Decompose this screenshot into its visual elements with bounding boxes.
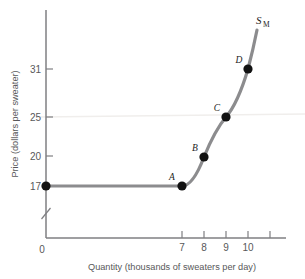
- x-axis-title: Quantity (thousands of sweaters per day): [88, 262, 256, 272]
- y-tick-label-25: 25: [30, 112, 42, 123]
- data-point-a: [177, 181, 186, 190]
- data-point-label-a: A: [168, 172, 175, 182]
- x-axis-ticks: [182, 231, 270, 238]
- y-tick-label-17: 17: [30, 181, 42, 192]
- supply-curve-chart: 31 25 20 17 7 8 9 10 0: [0, 0, 305, 279]
- x-tick-label-8: 8: [201, 242, 207, 253]
- data-point-label-b: B: [192, 143, 198, 153]
- data-point-origin: [41, 181, 50, 190]
- x-tick-label-7: 7: [179, 242, 185, 253]
- axes: [42, 10, 287, 238]
- data-point-c: [221, 112, 230, 121]
- data-point-d: [243, 64, 252, 73]
- y-tick-label-31: 31: [30, 64, 42, 75]
- x-tick-label-9: 9: [223, 242, 229, 253]
- data-points: [41, 64, 252, 190]
- x-tick-label-10: 10: [242, 242, 254, 253]
- y-axis-tick-labels: 31 25 20 17: [30, 64, 42, 192]
- y-axis-ticks: [46, 69, 53, 186]
- curve-label: S: [256, 14, 262, 26]
- curve-label-group: S M: [256, 14, 270, 29]
- y-tick-label-20: 20: [30, 151, 42, 162]
- x-axis-tick-labels: 7 8 9 10: [179, 242, 254, 253]
- scan-artifact-line: [40, 114, 305, 117]
- y-axis-title: Price (dollars per sweater): [10, 70, 20, 177]
- data-point-label-d: D: [235, 55, 243, 65]
- curve-label-subscript: M: [263, 20, 270, 29]
- data-point-label-c: C: [214, 103, 221, 113]
- data-point-labels: A B C D: [168, 55, 242, 182]
- origin-label: 0: [39, 244, 45, 255]
- supply-curve: [46, 30, 257, 186]
- chart-svg: 31 25 20 17 7 8 9 10 0: [0, 0, 305, 279]
- data-point-b: [199, 152, 208, 161]
